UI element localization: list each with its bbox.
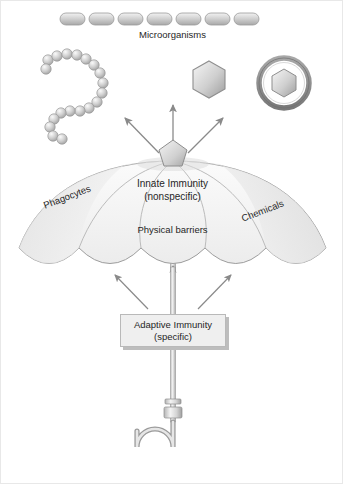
arrow-to-enveloped-virus: [188, 118, 223, 153]
enveloped-virus-icon: [259, 58, 309, 108]
adaptive-immunity-subtitle: (specific): [154, 331, 192, 343]
cocci-chain-icon: [41, 49, 108, 144]
immunity-umbrella-figure: Microorganisms Innate Immunity (nonspeci…: [0, 0, 343, 484]
microorganisms-label: Microorganisms: [1, 29, 343, 41]
adaptive-arrow-left: [115, 275, 148, 309]
adaptive-arrow-right: [198, 275, 231, 309]
umbrella-ferrule-icon: [159, 140, 187, 166]
virus-hexagon-icon: [193, 61, 225, 98]
adaptive-immunity-callout: Adaptive Immunity (specific): [120, 314, 226, 347]
umbrella-shaft-bottom: [137, 267, 182, 447]
umbrella-runner-body: [164, 407, 182, 418]
innate-immunity-title: Innate Immunity: [137, 178, 208, 189]
diagram-canvas: [1, 1, 343, 484]
physical-barriers-label: Physical barriers: [1, 224, 343, 236]
arrow-to-cocci: [125, 118, 159, 153]
umbrella-runner-top: [165, 399, 181, 404]
adaptive-immunity-title: Adaptive Immunity: [134, 319, 212, 331]
bacilli-chain-icon: [60, 13, 259, 25]
